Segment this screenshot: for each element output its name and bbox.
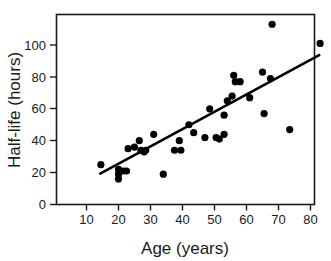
plot-frame bbox=[57, 15, 315, 205]
scatter-plot-figure: 0 20 40 60 80 100 10 20 30 40 50 60 70 8… bbox=[0, 0, 331, 261]
data-point bbox=[221, 131, 228, 138]
y-axis-label: Half-life (hours) bbox=[5, 52, 24, 168]
y-tick-label-100: 100 bbox=[24, 38, 46, 53]
y-axis-ticks bbox=[50, 45, 57, 205]
y-tick-label-60: 60 bbox=[32, 101, 46, 116]
data-point bbox=[115, 175, 122, 182]
data-point bbox=[221, 112, 228, 119]
x-tick-label-30: 30 bbox=[143, 212, 157, 227]
x-tick-label-80: 80 bbox=[303, 212, 317, 227]
data-point bbox=[97, 161, 104, 168]
data-point bbox=[160, 171, 167, 178]
y-tick-label-20: 20 bbox=[32, 165, 46, 180]
data-point bbox=[136, 137, 143, 144]
data-point bbox=[177, 147, 184, 154]
regression-line bbox=[99, 55, 320, 175]
data-point bbox=[317, 40, 324, 47]
data-point bbox=[229, 92, 236, 99]
data-point bbox=[150, 131, 157, 138]
data-point bbox=[125, 145, 132, 152]
data-point bbox=[206, 105, 213, 112]
data-point bbox=[269, 21, 276, 28]
data-point bbox=[176, 137, 183, 144]
data-point bbox=[286, 126, 293, 133]
x-axis-label: Age (years) bbox=[141, 239, 229, 258]
data-point bbox=[142, 147, 149, 154]
x-tick-label-60: 60 bbox=[239, 212, 253, 227]
y-tick-label-40: 40 bbox=[32, 133, 46, 148]
x-tick-label-40: 40 bbox=[175, 212, 189, 227]
data-point bbox=[261, 110, 268, 117]
y-tick-label-80: 80 bbox=[32, 70, 46, 85]
data-point bbox=[171, 147, 178, 154]
x-tick-label-20: 20 bbox=[111, 212, 125, 227]
x-tick-label-10: 10 bbox=[79, 212, 93, 227]
data-point bbox=[190, 129, 197, 136]
x-axis-ticks bbox=[87, 205, 311, 211]
x-tick-label-70: 70 bbox=[271, 212, 285, 227]
data-point bbox=[201, 134, 208, 141]
data-point bbox=[230, 72, 237, 79]
data-point bbox=[185, 121, 192, 128]
data-point bbox=[237, 78, 244, 85]
data-point bbox=[246, 94, 253, 101]
data-point bbox=[267, 75, 274, 82]
x-tick-label-50: 50 bbox=[207, 212, 221, 227]
data-point bbox=[131, 143, 138, 150]
data-point bbox=[123, 167, 130, 174]
y-tick-label-0: 0 bbox=[39, 197, 46, 212]
plot-canvas: 0 20 40 60 80 100 10 20 30 40 50 60 70 8… bbox=[0, 0, 331, 261]
data-point bbox=[259, 69, 266, 76]
